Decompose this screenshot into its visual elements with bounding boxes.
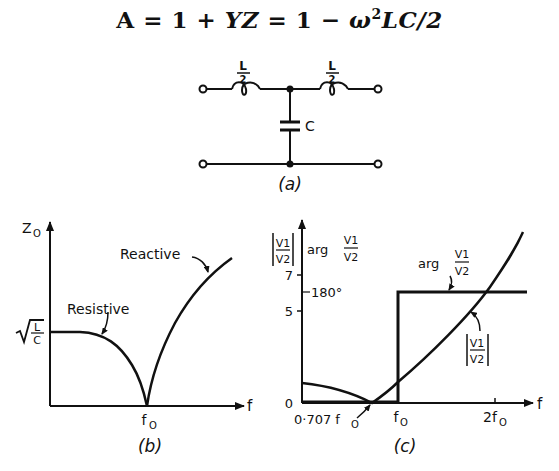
plot-b-y-tick-den: C xyxy=(33,334,41,347)
plot-c-y-tick-0: 0 xyxy=(285,396,293,411)
plot-c-x-tick-2f0: 2f xyxy=(483,409,498,425)
plot-b-x-tick-f0-sub: O xyxy=(149,420,157,431)
capacitor-label: C xyxy=(305,118,315,134)
plot-c-y-axis-label-mag: V1 V2 xyxy=(273,233,293,266)
plot-b-annotation-resistive: Resistive xyxy=(67,301,129,317)
plot-c-x-tick-f0: f xyxy=(394,409,400,425)
caption-a: (a) xyxy=(278,174,302,194)
plot-b-y-axis-label: Z xyxy=(22,220,32,236)
inductor-right-label-den: 2 xyxy=(329,74,336,85)
terminal-top-left xyxy=(200,86,207,93)
plot-c-annotation-arg-den: V2 xyxy=(455,265,470,278)
terminal-top-right xyxy=(375,86,382,93)
plot-b-annotation-reactive: Reactive xyxy=(120,246,180,262)
plot-b-x-tick-f0: f xyxy=(142,412,148,428)
plot-b-x-axis-label: f xyxy=(247,397,253,415)
plot-b-y-axis-sub: O xyxy=(33,228,41,239)
plot-c-y-tick-5: 5 xyxy=(285,304,293,319)
terminal-bottom-left xyxy=(200,161,207,168)
inductor-left-label-num: L xyxy=(239,59,247,73)
plot-b-resistive-curve xyxy=(50,332,147,406)
caption-c: (c) xyxy=(394,436,417,456)
plot-c-x-tick-2f0-sub: O xyxy=(499,417,507,428)
t-section-circuit xyxy=(200,82,382,167)
plot-b-y-tick-num: L xyxy=(34,321,41,334)
inductor-right-label-num: L xyxy=(328,59,336,73)
plot-c-y-label-arg-num: V1 xyxy=(344,234,359,247)
diagram-canvas: L 2 L 2 C (a) Resistive Reactive Z O f L… xyxy=(0,0,559,471)
plot-b-reactive-curve xyxy=(147,258,232,406)
plot-c-y-label-mag-num: V1 xyxy=(276,237,291,250)
plot-c-annotation-mag-num: V1 xyxy=(470,337,485,350)
caption-b: (b) xyxy=(138,436,162,456)
plot-c-annotation-arg-num: V1 xyxy=(455,248,470,261)
plot-c-annotation-mag-den: V2 xyxy=(470,353,485,366)
plot-c-arg-curve xyxy=(302,292,527,402)
plot-c-y-label-arg: arg xyxy=(307,242,328,257)
plot-c-x-axis-label: f xyxy=(537,395,543,413)
plot-c-annotation-mag: V1 V2 xyxy=(467,334,488,366)
plot-c-y-tick-7: 7 xyxy=(285,268,293,283)
terminal-bottom-right xyxy=(375,161,382,168)
plot-c-y-tick-180: 180° xyxy=(311,285,342,300)
inductor-left-label-den: 2 xyxy=(240,74,247,85)
plot-c-y-label-mag-den: V2 xyxy=(276,253,291,266)
plot-c-annotation-arg: arg xyxy=(418,256,439,271)
plot-c-y-label-arg-den: V2 xyxy=(344,251,359,264)
plot-c-axes xyxy=(297,220,533,403)
plot-c-x-tick-f0-sub: O xyxy=(400,417,408,428)
plot-c-magnitude-curve xyxy=(302,232,523,403)
plot-c-annotation-0707: 0·707 f xyxy=(294,412,340,427)
plot-c-annotation-0707-sub: O xyxy=(351,419,359,430)
